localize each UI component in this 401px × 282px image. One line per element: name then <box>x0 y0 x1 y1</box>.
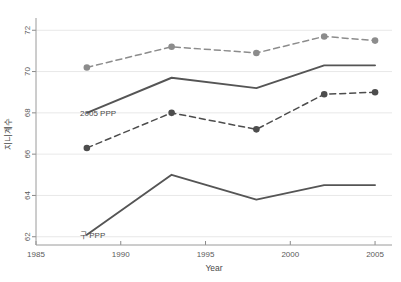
annotation-label-1: 구 PPP <box>80 231 105 240</box>
series-2005-ppp-mean <box>87 65 375 112</box>
chart-canvas: 626466687072 19851990199520002005 2005 P… <box>0 0 401 282</box>
x-tick-label-group: 19851990199520002005 <box>27 250 384 259</box>
data-point <box>372 89 379 96</box>
data-point <box>84 64 91 71</box>
y-tickmark-group <box>32 30 36 236</box>
x-tick-label: 1995 <box>197 250 215 259</box>
gini-ppp-line-chart: 626466687072 19851990199520002005 2005 P… <box>0 0 401 282</box>
x-tick-label: 2005 <box>366 250 384 259</box>
x-tickmark-group <box>36 241 375 245</box>
y-tick-label-group: 626466687072 <box>23 25 32 241</box>
y-tick-label: 64 <box>24 190 33 199</box>
data-point <box>168 43 175 50</box>
annotation-label-0: 2005 PPP <box>80 109 116 118</box>
y-tick-label: 70 <box>24 67 33 76</box>
series-line <box>87 92 375 148</box>
series-group <box>84 33 379 235</box>
series-line <box>87 65 375 112</box>
data-point <box>168 110 175 117</box>
y-tick-label: 62 <box>24 232 33 241</box>
data-point <box>84 145 91 152</box>
data-point <box>253 50 260 57</box>
data-point <box>321 91 328 98</box>
data-point <box>321 33 328 40</box>
data-point <box>372 37 379 44</box>
x-tick-label: 1985 <box>27 250 45 259</box>
data-point <box>253 126 260 133</box>
y-tick-label: 72 <box>23 25 32 34</box>
x-tick-label: 2000 <box>281 250 299 259</box>
y-tick-label: 68 <box>24 108 33 117</box>
series-line <box>87 36 375 67</box>
x-axis-title: Year <box>205 263 222 273</box>
series-2005-ppp-lower <box>84 89 379 151</box>
x-tick-label: 1990 <box>112 250 130 259</box>
annotation-group: 2005 PPP구 PPP <box>80 109 116 240</box>
y-tick-label: 66 <box>24 149 33 158</box>
series-line <box>87 175 375 235</box>
y-axis-title: 지니계수 <box>3 118 13 150</box>
gridline-group <box>36 30 392 236</box>
series-구-ppp-mean <box>87 175 375 235</box>
